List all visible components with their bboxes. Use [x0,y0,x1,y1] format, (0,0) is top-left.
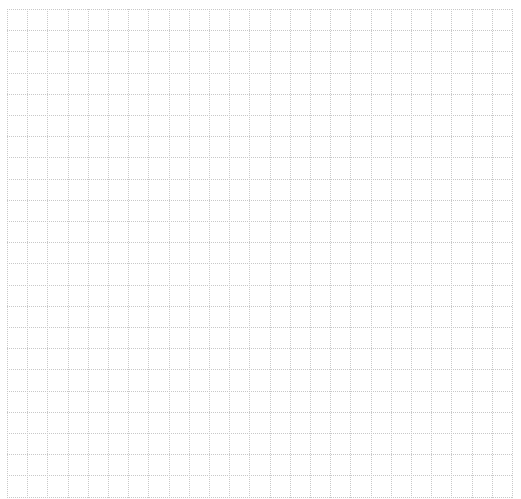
dotted-grid-paper [0,0,521,499]
